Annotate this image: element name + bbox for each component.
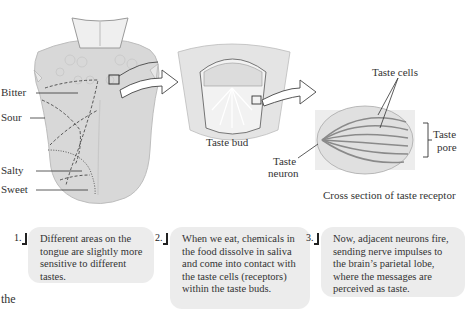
tongue-illustration [30, 18, 159, 204]
taste-bud-caption: Taste bud [206, 136, 248, 148]
step-marker-icon [314, 233, 319, 245]
step-2-number: 2. [155, 232, 163, 243]
label-taste-cells: Taste cells [372, 66, 418, 78]
step-3-number: 3. [306, 232, 314, 243]
step-3-text: Now, adjacent neurons fire, sending nerv… [333, 233, 449, 294]
step-2-number-text: 2. [155, 232, 163, 243]
label-taste-pore-line1: Taste [433, 128, 456, 140]
step-1-number: 1. [14, 232, 22, 243]
taste-bud-illustration [178, 44, 290, 140]
label-sweet: Sweet [1, 183, 28, 195]
receptor-illustration [298, 78, 432, 174]
step-2-text: When we eat, chemicals in the food disso… [182, 233, 296, 294]
step-3-box: Now, adjacent neurons fire, sending nerv… [321, 227, 465, 297]
step-1-box: Different areas on the tongue are slight… [28, 227, 154, 283]
label-taste-neuron-line1: Taste [273, 155, 296, 167]
step-marker-icon [163, 233, 168, 245]
label-sour: Sour [1, 111, 22, 123]
step-marker-icon [22, 233, 27, 245]
step-1-number-text: 1. [14, 232, 22, 243]
receptor-caption: Cross section of taste receptor [323, 189, 456, 201]
step-3-number-text: 3. [306, 232, 314, 243]
step-2-box: When we eat, chemicals in the food disso… [170, 227, 310, 309]
footer-text: the [1, 292, 16, 307]
label-salty: Salty [1, 164, 24, 176]
label-taste-pore-line2: pore [437, 141, 457, 153]
step-1-text: Different areas on the tongue are slight… [40, 233, 142, 282]
label-taste-neuron-line2: neuron [268, 167, 299, 179]
label-bitter: Bitter [1, 86, 26, 98]
